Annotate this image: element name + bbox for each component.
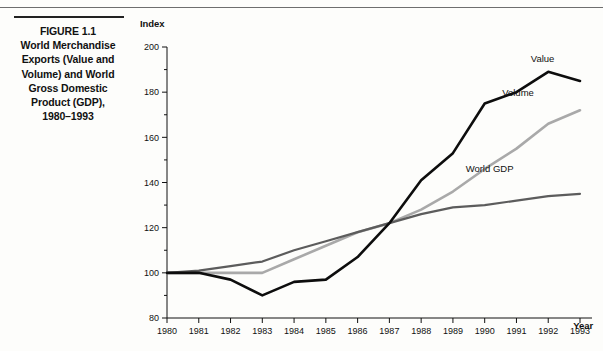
caption-line-1: FIGURE 1.1 xyxy=(6,24,130,38)
svg-text:1990: 1990 xyxy=(475,326,495,336)
line-chart: 8010012014016018020019801981198219831984… xyxy=(140,18,595,338)
page-top-rule xyxy=(0,7,603,8)
svg-text:1991: 1991 xyxy=(506,326,526,336)
caption-line-6: Product (GDP), xyxy=(6,95,130,109)
caption-line-3: Exports (Value and xyxy=(6,52,130,66)
figure-container: FIGURE 1.1 World Merchandise Exports (Va… xyxy=(0,0,603,351)
svg-text:1987: 1987 xyxy=(379,326,399,336)
series-label-volume: Volume xyxy=(502,87,534,98)
caption-line-7: 1980–1993 xyxy=(6,109,130,123)
svg-text:200: 200 xyxy=(144,42,159,52)
svg-text:1988: 1988 xyxy=(411,326,431,336)
svg-text:80: 80 xyxy=(149,313,159,323)
svg-text:120: 120 xyxy=(144,223,159,233)
svg-text:160: 160 xyxy=(144,133,159,143)
series-label-world-gdp: World GDP xyxy=(466,163,514,174)
svg-text:1992: 1992 xyxy=(538,326,558,336)
caption-line-2: World Merchandise xyxy=(6,38,130,52)
svg-text:180: 180 xyxy=(144,87,159,97)
caption-line-5: Gross Domestic xyxy=(6,81,130,95)
series-label-value: Value xyxy=(531,53,555,64)
chart-plot-area: Index Year 80100120140160180200198019811… xyxy=(140,18,595,338)
caption-line-4: Volume) and World xyxy=(6,67,130,81)
figure-caption: FIGURE 1.1 World Merchandise Exports (Va… xyxy=(6,24,130,123)
caption-rule xyxy=(14,16,124,18)
svg-text:1980: 1980 xyxy=(157,326,177,336)
svg-text:1983: 1983 xyxy=(252,326,272,336)
svg-text:1993: 1993 xyxy=(570,326,590,336)
svg-text:1989: 1989 xyxy=(443,326,463,336)
svg-text:1981: 1981 xyxy=(189,326,209,336)
svg-text:1985: 1985 xyxy=(316,326,336,336)
svg-text:140: 140 xyxy=(144,178,159,188)
svg-text:1982: 1982 xyxy=(221,326,241,336)
svg-text:1984: 1984 xyxy=(284,326,304,336)
svg-text:1986: 1986 xyxy=(348,326,368,336)
svg-text:100: 100 xyxy=(144,268,159,278)
